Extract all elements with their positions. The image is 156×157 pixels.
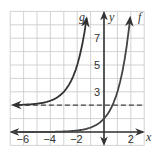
- x-tick-label: −6: [17, 133, 30, 145]
- x-tick-label: 2: [128, 133, 134, 145]
- curve-f: [13, 18, 130, 132]
- y-axis-label: y: [108, 10, 115, 24]
- y-tick-label: 3: [94, 86, 100, 98]
- y-tick-label: 5: [94, 59, 100, 71]
- curve-label-g: g: [79, 10, 85, 24]
- x-tick-label: −4: [43, 133, 56, 145]
- curve-label-f: f: [138, 10, 143, 24]
- x-tick-label: −2: [70, 133, 83, 145]
- y-tick-label: 7: [94, 32, 100, 44]
- x-axis-label: x: [145, 130, 152, 144]
- grid: [10, 11, 144, 145]
- exponential-graph: −6−4−22357 x y f g: [0, 0, 156, 157]
